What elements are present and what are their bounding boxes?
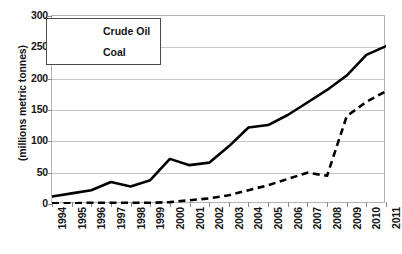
series-line-crude-oil [52,46,386,196]
x-axis-tick-label: 2004 [252,207,264,230]
legend-label-coal: Coal [103,46,126,58]
x-axis-tick-labels: 1994199519961997199819992000200120022003… [51,203,385,254]
x-axis-tick-label: 2005 [272,207,284,230]
x-axis-tick-label: 1995 [76,207,88,230]
y-axis-tick-label: 0 [20,197,48,209]
x-axis-tick-label: 1999 [154,207,166,230]
y-axis-tick-label: 50 [20,166,48,178]
y-axis-tick-label: 300 [20,9,48,21]
x-axis-tick-label: 2000 [174,207,186,230]
y-axis-tick-label: 150 [20,103,48,115]
x-axis-tick-mark [386,202,387,207]
x-axis-tick-label: 2011 [390,207,402,229]
y-axis-tick-label: 200 [20,72,48,84]
legend-label-crude-oil: Crude Oil [103,25,150,37]
legend-entry-crude-oil: Crude Oil [47,22,162,40]
y-axis-tick-label: 250 [20,40,48,52]
x-axis-tick-label: 2009 [351,207,363,230]
y-axis-tick-label: 100 [20,134,48,146]
x-axis-tick-label: 2003 [233,207,245,230]
x-axis-tick-label: 2010 [370,207,382,230]
x-axis-tick-label: 2001 [194,207,206,230]
x-axis-tick-label: 2007 [311,207,323,230]
x-axis-tick-label: 2006 [292,207,304,230]
x-axis-tick-label: 1998 [135,207,147,230]
y-axis-tick-labels: 050100150200250300 [14,0,48,254]
legend-entry-coal: Coal [47,43,162,61]
x-axis-tick-label: 2008 [331,207,343,230]
chart-legend: Crude Oil Coal [46,18,161,65]
x-axis-tick-label: 2002 [213,207,225,230]
x-axis-tick-label: 1997 [115,207,127,230]
x-axis-tick-label: 1996 [95,207,107,230]
x-axis-tick-label: 1994 [56,207,68,230]
